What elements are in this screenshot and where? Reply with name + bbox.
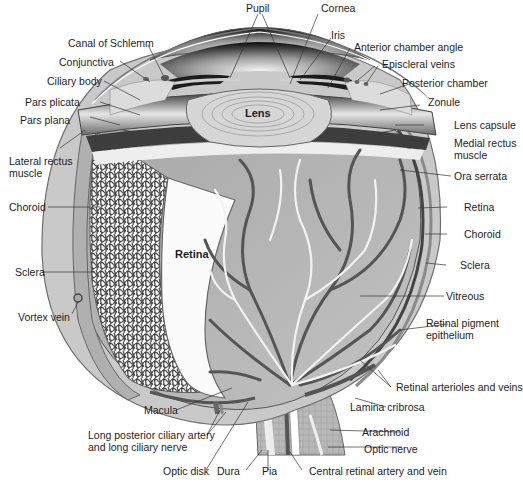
label-lpc-line2: and long ciliary nerve [88, 441, 215, 453]
label-lamina-cribrosa: Lamina cribrosa [350, 401, 425, 413]
label-cornea: Cornea [321, 2, 355, 14]
retina-panel-label: Retina [175, 248, 209, 260]
label-lens-capsule: Lens capsule [454, 119, 516, 131]
label-retina-right: Retina [464, 201, 494, 213]
label-lateral-rectus-line1: Lateral rectus [9, 155, 73, 167]
label-episcleral-veins: Episcleral veins [382, 58, 455, 70]
label-sclera-left: Sclera [15, 266, 45, 278]
label-choroid-right: Choroid [464, 228, 501, 240]
label-pia: Pia [262, 465, 277, 477]
label-optic-disk: Optic disk [163, 465, 209, 477]
label-long-posterior-ciliary: Long posterior ciliary artery and long c… [88, 429, 215, 453]
lens-label: Lens [245, 107, 271, 119]
label-macula: Macula [144, 404, 178, 416]
label-medial-rectus-line2: muscle [454, 149, 516, 161]
label-conjunctiva: Conjunctiva [59, 56, 114, 68]
label-pupil: Pupil [246, 2, 269, 14]
label-retinal-arterioles-and-veins: Retinal arterioles and veins [396, 381, 523, 393]
label-medial-rectus-line1: Medial rectus [454, 137, 516, 149]
label-pars-plana: Pars plana [20, 114, 70, 126]
label-central-retinal-artery-and-vein: Central retinal artery and vein [309, 465, 447, 477]
label-lpc-line1: Long posterior ciliary artery [88, 429, 215, 441]
label-iris: Iris [331, 29, 345, 41]
label-lateral-rectus-line2: muscle [9, 167, 73, 179]
label-rpe-line2: epithelium [426, 329, 499, 341]
label-ciliary-body: Ciliary body [47, 75, 102, 87]
label-medial-rectus-muscle: Medial rectus muscle [454, 137, 516, 161]
label-choroid-left: Choroid [9, 201, 46, 213]
label-dura: Dura [217, 465, 240, 477]
label-arachnoid: Arachnoid [362, 426, 409, 438]
label-lateral-rectus-muscle: Lateral rectus muscle [9, 155, 73, 179]
label-zonule: Zonule [428, 96, 460, 108]
label-rpe-line1: Retinal pigment [426, 317, 499, 329]
label-optic-nerve: Optic nerve [364, 443, 418, 455]
label-ora-serrata: Ora serrata [454, 170, 507, 182]
label-sclera-right: Sclera [460, 259, 490, 271]
label-posterior-chamber: Posterior chamber [402, 77, 488, 89]
label-pars-plicata: Pars plicata [25, 96, 80, 108]
label-canal-of-schlemm: Canal of Schlemm [68, 37, 154, 49]
label-vortex-vein: Vortex vein [18, 311, 70, 323]
label-retinal-pigment-epithelium: Retinal pigment epithelium [426, 317, 499, 341]
label-anterior-chamber-angle: Anterior chamber angle [354, 41, 463, 53]
label-vitreous: Vitreous [446, 290, 484, 302]
